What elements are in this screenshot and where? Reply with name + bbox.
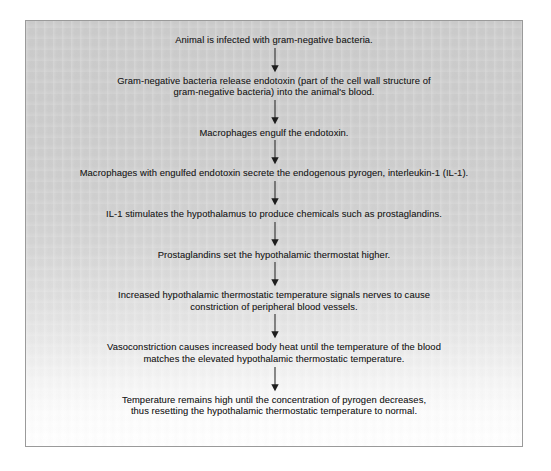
flow-step: Macrophages with engulfed endotoxin secr… [39,167,509,179]
flow-step: Gram-negative bacteria release endotoxin… [39,75,509,98]
flow-step: Vasoconstriction causes increased body h… [39,341,509,364]
flow-step: IL-1 stimulates the hypothalamus to prod… [39,208,509,220]
flowchart: Animal is infected with gram-negative ba… [26,21,522,417]
flow-step: Macrophages engulf the endotoxin. [39,127,509,139]
flow-step: Prostaglandins set the hypothalamic ther… [39,249,509,261]
down-arrow-icon [268,367,282,392]
down-arrow-icon [268,262,282,287]
flow-step: Increased hypothalamic thermostatic temp… [39,289,509,312]
down-arrow-icon [268,100,282,125]
down-arrow-icon [268,48,282,73]
down-arrow-icon [268,222,282,247]
figure-panel: Animal is infected with gram-negative ba… [25,20,523,447]
down-arrow-icon [268,140,282,165]
down-arrow-icon [268,314,282,339]
flow-step: Animal is infected with gram-negative ba… [39,34,509,46]
page-canvas: Animal is infected with gram-negative ba… [0,0,551,471]
down-arrow-icon [268,181,282,206]
flow-step: Temperature remains high until the conce… [39,394,509,417]
